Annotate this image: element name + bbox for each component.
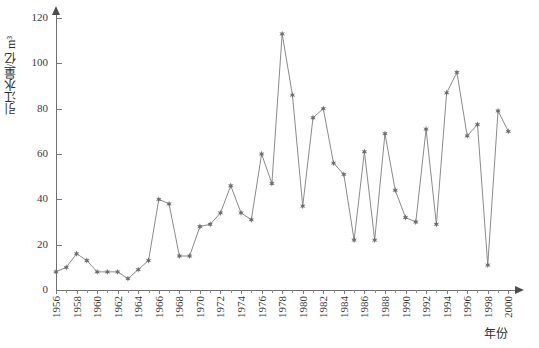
data-point xyxy=(485,262,491,268)
data-point xyxy=(351,237,357,243)
data-point xyxy=(382,130,388,136)
data-point xyxy=(290,92,296,98)
data-point xyxy=(372,237,378,243)
data-point xyxy=(300,203,306,209)
series-plot-area xyxy=(0,0,539,348)
data-point xyxy=(506,128,512,134)
data-point xyxy=(392,187,398,193)
data-point xyxy=(495,108,501,114)
data-point xyxy=(53,269,59,275)
data-point xyxy=(423,126,429,132)
data-point xyxy=(362,149,368,155)
data-point xyxy=(269,180,275,186)
data-point xyxy=(259,151,265,157)
data-point xyxy=(228,183,234,189)
data-point xyxy=(454,69,460,75)
series-line xyxy=(56,34,508,279)
data-point xyxy=(434,221,440,227)
data-point xyxy=(403,214,409,220)
data-point xyxy=(156,196,162,202)
series-markers xyxy=(53,31,511,282)
data-point xyxy=(249,217,255,223)
chart-container: 引江水量/亿 m³ 年份 020406080100120 19561958196… xyxy=(0,0,539,348)
data-point xyxy=(413,219,419,225)
data-point xyxy=(279,31,285,37)
data-point xyxy=(166,201,172,207)
data-point xyxy=(238,210,244,216)
data-point xyxy=(444,90,450,96)
